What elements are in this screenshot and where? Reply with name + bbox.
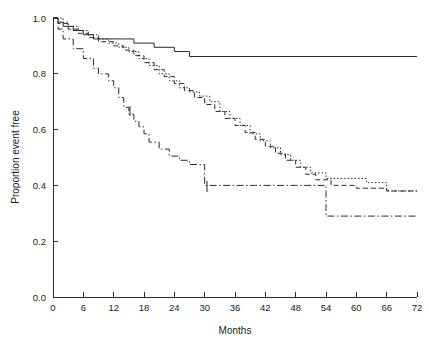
y-tick-label: 0.2 [33, 236, 46, 247]
y-axis-title: Proportion event free [10, 110, 21, 204]
x-tick-label: 48 [290, 302, 301, 313]
curve-solid-flat [53, 18, 417, 57]
x-axis-ticks [53, 292, 417, 297]
y-tick-label: 0.4 [33, 180, 46, 191]
x-axis-title: Months [219, 325, 252, 336]
y-tick-label: 1.0 [33, 13, 46, 24]
y-axis-tick-labels: 0.00.20.40.60.81.0 [33, 13, 46, 303]
y-axis: 0.00.20.40.60.81.0 Proportion event free [10, 13, 58, 303]
x-tick-label: 30 [199, 302, 210, 313]
x-tick-label: 66 [381, 302, 392, 313]
survival-curves [53, 18, 417, 216]
x-tick-label: 36 [230, 302, 241, 313]
x-tick-label: 6 [81, 302, 86, 313]
x-tick-label: 54 [321, 302, 332, 313]
y-tick-label: 0.0 [33, 292, 46, 303]
x-tick-label: 42 [260, 302, 271, 313]
x-tick-label: 24 [169, 302, 180, 313]
survival-plot-svg: 0.00.20.40.60.81.0 Proportion event free… [0, 0, 429, 355]
x-tick-label: 0 [50, 302, 55, 313]
y-axis-ticks [53, 18, 58, 297]
y-tick-label: 0.8 [33, 68, 46, 79]
x-tick-label: 12 [108, 302, 119, 313]
curve-dash-dot [53, 18, 417, 216]
x-axis-tick-labels: 061218243036424854606672 [50, 302, 422, 313]
y-tick-label: 0.6 [33, 124, 46, 135]
x-axis: 061218243036424854606672 Months [50, 292, 422, 336]
kaplan-meier-figure: 0.00.20.40.60.81.0 Proportion event free… [0, 0, 429, 355]
curve-dotted [53, 18, 417, 191]
x-tick-label: 72 [412, 302, 423, 313]
x-tick-label: 18 [139, 302, 150, 313]
x-tick-label: 60 [351, 302, 362, 313]
curve-dashed [53, 18, 417, 191]
